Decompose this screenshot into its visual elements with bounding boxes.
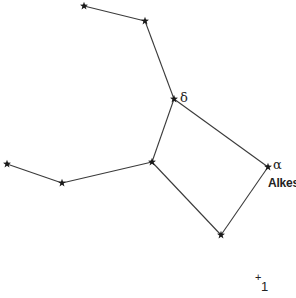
constellation-line — [221, 167, 268, 235]
constellation-line — [152, 99, 174, 162]
constellation-line — [84, 6, 145, 21]
stars — [3, 2, 272, 239]
star-icon — [141, 17, 149, 25]
constellation-line — [174, 99, 268, 167]
constellation-diagram — [0, 0, 296, 298]
constellation-line — [62, 162, 152, 183]
star-icon — [264, 163, 272, 171]
constellation-line — [7, 164, 62, 183]
star-icon — [3, 160, 11, 168]
marker-number-label: 1 — [261, 280, 268, 293]
alpha-label: α — [273, 158, 282, 171]
alkes-star-name: Alkes — [268, 177, 296, 189]
star-icon — [80, 2, 88, 10]
delta-label: δ — [180, 91, 188, 104]
constellation-line — [145, 21, 174, 99]
constellation-lines — [7, 6, 268, 235]
constellation-line — [152, 162, 221, 235]
star-icon — [58, 179, 66, 187]
